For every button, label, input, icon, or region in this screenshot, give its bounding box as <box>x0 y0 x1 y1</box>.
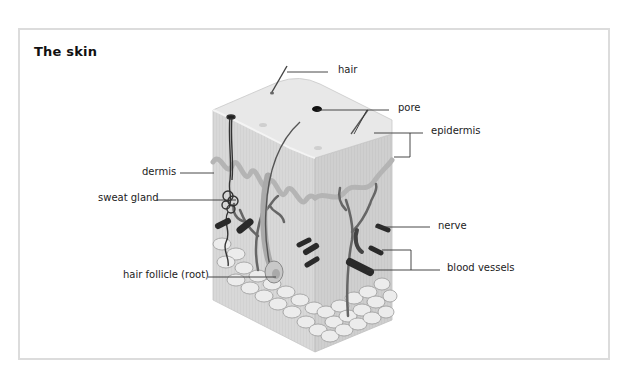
skin-cross-section-diagram <box>0 0 628 387</box>
label-nerve: nerve <box>438 220 467 231</box>
label-hair: hair <box>338 64 357 75</box>
skin-spot <box>259 123 267 127</box>
label-blood-vessels: blood vessels <box>447 262 515 273</box>
pore <box>312 106 322 112</box>
label-pore: pore <box>398 102 421 113</box>
hair-base <box>270 92 274 95</box>
label-hair-follicle: hair follicle (root) <box>123 269 209 280</box>
label-epidermis: epidermis <box>431 125 480 136</box>
label-dermis: dermis <box>142 166 176 177</box>
label-sweat-gland: sweat gland <box>98 192 159 203</box>
skin-spot <box>314 146 322 150</box>
